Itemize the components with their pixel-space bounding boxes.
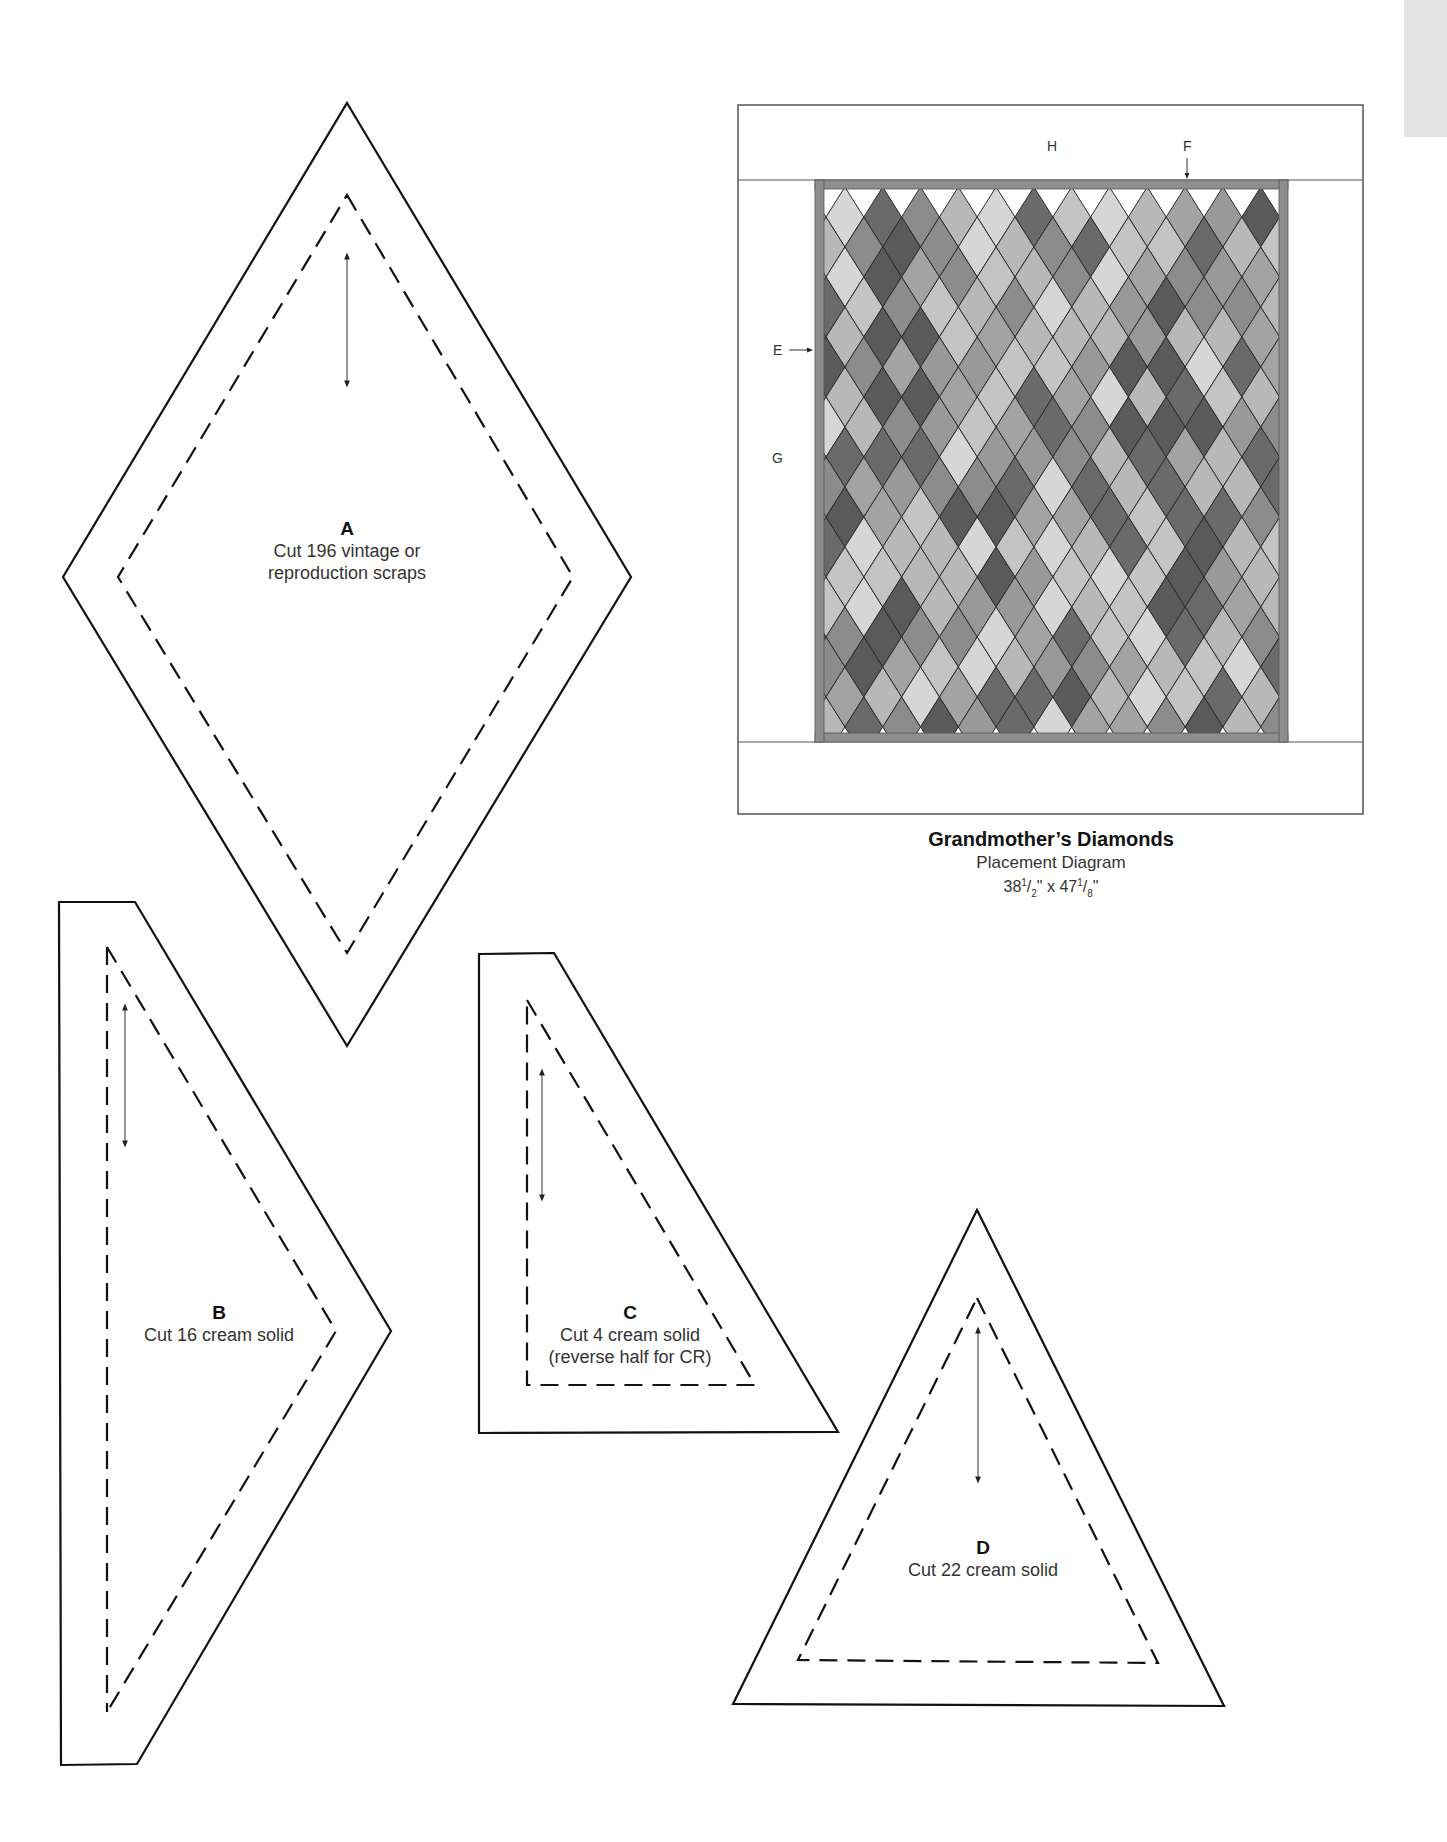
inner-border-strip <box>815 733 1288 742</box>
cut-instruction: reproduction scraps <box>268 562 426 584</box>
cut-instruction: Cut 196 vintage or <box>268 540 426 562</box>
quilt-title: Grandmother’s Diamonds <box>928 826 1174 852</box>
template-letter: B <box>144 1302 294 1324</box>
template-b-label: B Cut 16 cream solid <box>144 1302 294 1346</box>
template-d-label: D Cut 22 cream solid <box>908 1537 1058 1581</box>
border-label-g: G <box>772 450 783 466</box>
diagram-subtitle: Placement Diagram <box>928 852 1174 873</box>
placement-diagram <box>738 105 1363 814</box>
cut-instruction: (reverse half for CR) <box>548 1346 711 1368</box>
pattern-canvas <box>0 0 1447 1842</box>
border-label-f: F <box>1183 138 1192 154</box>
placement-caption: Grandmother’s Diamonds Placement Diagram… <box>928 826 1174 904</box>
inner-border-strip <box>815 180 1288 189</box>
cut-instruction: Cut 4 cream solid <box>548 1324 711 1346</box>
inner-border-strip <box>815 180 824 742</box>
template-letter: A <box>268 518 426 540</box>
quilt-size: 381/2" x 471/8" <box>928 873 1174 904</box>
cut-instruction: Cut 16 cream solid <box>144 1324 294 1346</box>
template-c-label: C Cut 4 cream solid (reverse half for CR… <box>548 1302 711 1368</box>
diamond-field <box>788 187 1336 757</box>
border-label-h: H <box>1047 138 1057 154</box>
border-label-e: E <box>773 342 782 358</box>
inner-border-strip <box>1279 180 1288 742</box>
template-a-label: A Cut 196 vintage or reproduction scraps <box>268 518 426 584</box>
cut-instruction: Cut 22 cream solid <box>908 1559 1058 1581</box>
template-letter: C <box>548 1302 711 1324</box>
template-letter: D <box>908 1537 1058 1559</box>
template-d <box>733 1210 1224 1706</box>
